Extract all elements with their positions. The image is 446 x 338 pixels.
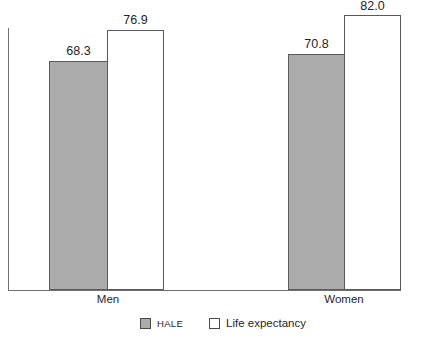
chart-legend: HALE Life expectancy [0, 318, 446, 330]
legend-entry-life-expectancy[interactable]: Life expectancy [209, 318, 306, 330]
legend-swatch-life-expectancy-icon [209, 318, 220, 329]
value-label-men-hale: 68.3 [49, 45, 108, 58]
value-label-women-hale: 70.8 [288, 38, 345, 51]
bar-women-hale[interactable] [288, 54, 345, 290]
category-label-men: Men [78, 294, 138, 306]
bar-chart: 68.3 76.9 Men 70.8 82.0 Women HALE Life … [0, 0, 446, 338]
y-axis-line [8, 28, 9, 291]
x-axis-baseline [8, 290, 400, 291]
category-label-women: Women [312, 294, 376, 306]
bar-men-hale[interactable] [49, 61, 108, 290]
value-label-men-life-expectancy: 76.9 [107, 14, 164, 27]
legend-label-hale: HALE [157, 319, 183, 329]
bar-men-life-expectancy[interactable] [107, 30, 164, 290]
bar-women-life-expectancy[interactable] [344, 15, 401, 290]
legend-swatch-hale-icon [140, 318, 151, 329]
value-label-women-life-expectancy: 82.0 [344, 0, 401, 13]
legend-label-life-expectancy: Life expectancy [226, 318, 306, 330]
legend-entry-hale[interactable]: HALE [140, 318, 183, 329]
